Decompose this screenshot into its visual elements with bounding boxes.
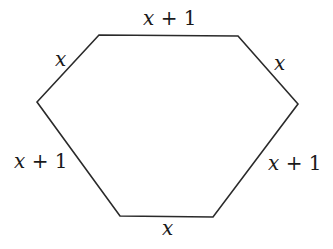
label-lower-right-side: x + 1	[268, 151, 321, 175]
label-bottom-side: x	[162, 216, 173, 240]
label-top-side: x + 1	[143, 6, 196, 30]
hexagon-outline	[37, 35, 298, 217]
label-upper-right-side: x	[274, 51, 285, 75]
label-upper-left-side: x	[55, 47, 66, 71]
label-lower-left-side: x + 1	[14, 149, 67, 173]
hexagon-diagram: x + 1 x x + 1 x x + 1 x	[0, 0, 333, 249]
